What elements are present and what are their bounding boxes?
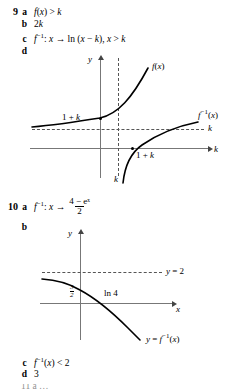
question-number-10: 10 (2, 201, 18, 212)
fraction-numerator-10a: 4 − eˣ (67, 197, 92, 206)
answer-text-10a: f−1: x →4 − eˣ2 (34, 198, 94, 217)
cut-off-next-row: 11 a … (2, 384, 227, 392)
answer-row-9a: 9 a f(x) > k (2, 6, 62, 17)
graph-9d-y-intercept-point (99, 117, 102, 120)
answers-page: 9 a f(x) > k b 2k c f−1: x → ln (x − k),… (0, 0, 229, 392)
inverse-exponent-9c: −1 (37, 32, 44, 40)
fraction-10a: 4 − eˣ2 (67, 197, 92, 216)
part-letter-10c: c (18, 358, 31, 368)
answer-row-10d: d 3 (2, 369, 39, 379)
graph-9d-curves (0, 50, 229, 190)
graph-10b-y-intercept-denominator: 2 (70, 291, 74, 299)
answer-text-10d: 3 (34, 369, 39, 379)
part-letter-9c: c (18, 34, 31, 44)
answer-text-9b: 2k (34, 19, 43, 29)
graph-9d-curve-finv-label: f−1(x) (198, 108, 218, 120)
answer-row-9b: b 2k (2, 19, 43, 29)
graph-9d: y k k k 1 + k 1 + k f(x) f−1(x) (0, 50, 229, 190)
graph-10b-x-intercept-label: ln 4 (104, 288, 118, 298)
inverse-exponent-10a: −1 (37, 200, 44, 208)
graph-9d-x-intercept-point (131, 147, 134, 150)
graph-10b-y-intercept-label: 3 2 (70, 284, 74, 299)
part-letter-9b: b (18, 19, 31, 29)
graph-9d-curve-f (32, 68, 148, 127)
part-letter-10a: a (18, 202, 31, 212)
answer-row-10c: c f−1(x) < 2 (2, 356, 70, 368)
answer-row-9c: c f−1: x → ln (x − k), x > k (2, 32, 126, 44)
question-number-9: 9 (2, 6, 18, 17)
cut-off-text: 11 a … (21, 384, 49, 391)
graph-10b-curve (42, 279, 140, 340)
inverse-exponent-10c: −1 (37, 356, 44, 364)
graph-10b-curve-label: y = f−1(x) (146, 332, 180, 344)
answer-text-9a: f(x) > k (34, 7, 62, 17)
fraction-denominator-10a: 2 (75, 206, 84, 216)
graph-9d-curve-f-label: f(x) (152, 61, 165, 71)
graph-9d-x-intercept-label: 1 + k (136, 150, 154, 160)
graph-9d-curve-finv (123, 122, 198, 183)
graph-10b-y-intercept-numerator: 3 (70, 284, 74, 291)
graph-10b-curve-svg (0, 222, 229, 347)
part-letter-10d: d (18, 369, 31, 379)
answer-row-10a: 10 a f−1: x →4 − eˣ2 (2, 198, 94, 217)
part-letter-9a: a (18, 7, 31, 17)
graph-9d-y-intercept-label: 1 + k (62, 112, 80, 122)
answer-text-10c: f−1(x) < 2 (34, 356, 70, 368)
graph-10b: y x y = 2 3 2 ln 4 y = f−1(x) (0, 222, 229, 347)
answer-text-9c: f−1: x → ln (x − k), x > k (34, 32, 126, 44)
